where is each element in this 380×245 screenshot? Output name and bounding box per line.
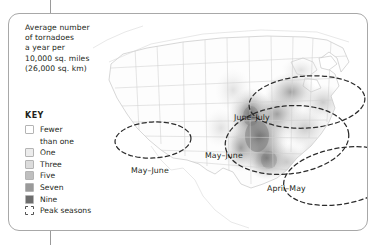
caption-line-5: (26,000 sq. km) <box>25 64 97 74</box>
key-label-nine: Nine <box>40 194 57 205</box>
caption-line-3: a year per <box>25 43 97 53</box>
key-label-three: Three <box>40 159 62 170</box>
key-item-seven: Seven <box>25 182 99 194</box>
key-item-five: Five <box>25 170 99 182</box>
key-swatch-fewer-than-one <box>25 125 34 134</box>
tornado-map <box>91 18 368 231</box>
key-item-fewer-than-one: Fewer <box>25 124 99 136</box>
key-swatch-one <box>25 148 34 157</box>
key-swatch-nine <box>25 195 34 204</box>
key-list: Fewer than one One Three Five Seven <box>25 124 99 217</box>
key-swatch-three <box>25 160 34 169</box>
figure-caption: Average number of tornadoes a year per 1… <box>25 23 97 74</box>
season-label-may-june-central: May–June <box>205 151 243 160</box>
caption-line-2: of tornadoes <box>25 33 97 43</box>
key-swatch-peak-seasons-icon <box>25 206 34 215</box>
key-label-fewer-than-one: Fewer <box>40 124 63 135</box>
key-label-five: Five <box>40 170 55 181</box>
key-label-seven: Seven <box>40 182 63 193</box>
bottom-rule <box>50 231 51 245</box>
key-item-one: One <box>25 147 99 159</box>
key-label-fewer-than-one-cont: than one <box>40 136 74 147</box>
key-swatch-seven <box>25 183 34 192</box>
top-rule <box>50 0 51 14</box>
key-label-one: One <box>40 147 55 158</box>
key-item-peak-seasons: Peak seasons <box>25 205 99 217</box>
season-label-may-june-southwest: May–June <box>131 166 169 175</box>
figure-panel: June–July May–June April–May May–June Av… <box>8 13 368 231</box>
key-item-fewer-than-one-cont: than one <box>25 136 99 148</box>
key-item-three: Three <box>25 159 99 171</box>
key-label-peak-seasons: Peak seasons <box>40 205 91 216</box>
figure-root: June–July May–June April–May May–June Av… <box>0 0 380 245</box>
key-item-nine: Nine <box>25 194 99 206</box>
key-swatch-five <box>25 171 34 180</box>
caption-line-4: 10,000 sq. miles <box>25 54 97 64</box>
season-label-april-may: April–May <box>267 184 306 193</box>
key-title: KEY <box>25 111 44 120</box>
season-label-june-july: June–July <box>234 113 270 122</box>
caption-line-1: Average number <box>25 23 97 33</box>
